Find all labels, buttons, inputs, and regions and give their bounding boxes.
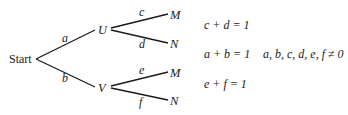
- equation-c-plus-d: c + d = 1: [204, 18, 250, 32]
- node-un-label: N: [169, 37, 179, 51]
- edge-label-d: d: [139, 37, 146, 51]
- equation-a-plus-b: a + b = 1: [204, 47, 250, 61]
- node-vm-label: M: [169, 66, 181, 80]
- edge-label-f: f: [139, 95, 144, 109]
- edge-label-e: e: [139, 63, 145, 77]
- edge-label-b: b: [62, 71, 68, 85]
- node-v-label: V: [98, 81, 107, 95]
- node-um-label: M: [169, 8, 181, 22]
- node-vn-label: N: [169, 94, 179, 108]
- probability-tree-diagram: Start a b U V c d M N e f M N c + d = 1 …: [0, 0, 348, 115]
- equation-e-plus-f: e + f = 1: [204, 77, 247, 91]
- constraint-nonzero: a, b, c, d, e, f ≠ 0: [263, 47, 344, 61]
- edge-label-a: a: [62, 31, 68, 45]
- node-u-label: U: [98, 23, 108, 37]
- start-node-label: Start: [9, 52, 32, 66]
- edge-label-c: c: [139, 5, 145, 19]
